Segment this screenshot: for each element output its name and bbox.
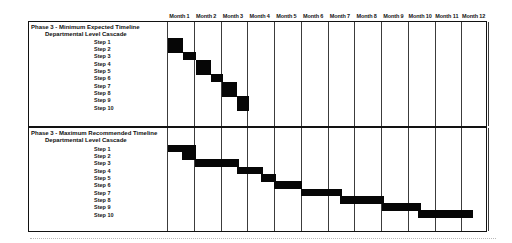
grid-line [274, 22, 275, 126]
gantt-bar [211, 74, 223, 82]
month-header-label: Month 7 [327, 13, 354, 20]
step-label: Step 9 [94, 97, 111, 104]
gantt-bar [301, 189, 342, 197]
month-header-label: Month 8 [353, 13, 380, 20]
grid-line [461, 22, 462, 126]
section-maximum-timeline: Phase 3 - Maximum Recommended Timeline D… [28, 127, 487, 232]
step-label: Step 5 [94, 68, 111, 75]
month-header-label: Month 1 [166, 13, 193, 20]
month-header-label: Month 12 [460, 13, 487, 20]
grid-line [354, 22, 355, 126]
step-label: Step 10 [94, 105, 114, 112]
step-label: Step 6 [94, 182, 111, 189]
gantt-bar [168, 45, 183, 53]
gantt-bar [382, 203, 421, 211]
section-title: Phase 3 - Maximum Recommended Timeline [31, 130, 157, 137]
step-label: Step 2 [94, 153, 111, 160]
month-header-label: Month 11 [434, 13, 461, 20]
month-header-label: Month 4 [246, 13, 273, 20]
grid-line [381, 22, 382, 126]
step-label: Step 1 [94, 146, 111, 153]
gantt-bar [237, 103, 250, 111]
step-label: Step 1 [94, 39, 111, 46]
step-label: Step 9 [94, 204, 111, 211]
gantt-bar [340, 196, 385, 204]
step-label: Step 4 [94, 61, 111, 68]
gantt-bar [237, 167, 262, 175]
grid-line [194, 22, 195, 126]
gantt-bar [418, 210, 473, 218]
grid-line [194, 128, 195, 231]
gantt-bar [196, 67, 211, 75]
grid-line [435, 22, 436, 126]
step-label: Step 8 [94, 90, 111, 97]
gantt-page: Phase 3 - Minimum Expected Timeline Depa… [0, 0, 512, 243]
step-label: Step 10 [94, 212, 114, 219]
grid-line [328, 22, 329, 126]
step-label: Step 5 [94, 175, 111, 182]
gantt-bar [274, 181, 302, 189]
month-header-label: Month 2 [193, 13, 220, 20]
grid-line [488, 22, 489, 126]
section-subtitle: Departmental Level Cascade [45, 31, 127, 38]
grid-line [354, 128, 355, 231]
grid-line [301, 128, 302, 231]
month-header-label: Month 10 [407, 13, 434, 20]
grid-line [221, 128, 222, 231]
month-header-label: Month 9 [380, 13, 407, 20]
gantt-bar [222, 89, 237, 97]
step-label: Step 2 [94, 46, 111, 53]
step-label: Step 3 [94, 53, 111, 60]
grid-line [488, 128, 489, 231]
section-subtitle: Departmental Level Cascade [45, 137, 127, 144]
page-scan-shadow-line [30, 238, 496, 239]
grid-line [408, 128, 409, 231]
month-header-label: Month 3 [220, 13, 247, 20]
gantt-bar [182, 152, 196, 160]
section-title: Phase 3 - Minimum Expected Timeline [31, 24, 140, 31]
step-label: Step 3 [94, 160, 111, 167]
step-label: Step 8 [94, 197, 111, 204]
gantt-bar [195, 159, 239, 167]
step-label: Step 7 [94, 190, 111, 197]
step-label: Step 7 [94, 83, 111, 90]
month-header-label: Month 6 [300, 13, 327, 20]
step-label: Step 6 [94, 75, 111, 82]
grid-line [408, 22, 409, 126]
grid-line [247, 128, 248, 231]
section-minimum-timeline: Phase 3 - Minimum Expected Timeline Depa… [28, 21, 487, 127]
grid-line [301, 22, 302, 126]
step-label: Step 4 [94, 168, 111, 175]
gantt-bar [183, 52, 196, 60]
grid-line [381, 128, 382, 231]
grid-line [328, 128, 329, 231]
grid-line [167, 128, 168, 231]
month-header-label: Month 5 [273, 13, 300, 20]
